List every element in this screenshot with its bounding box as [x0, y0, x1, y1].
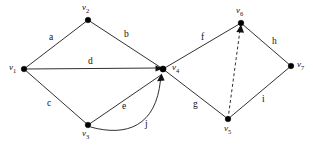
edge-label-i: i: [262, 95, 265, 105]
vertex-label-v4: v4: [172, 63, 179, 72]
edge-label-e: e: [122, 102, 126, 112]
vertex-label-v2: v2: [82, 3, 89, 12]
graph-canvas: [0, 0, 313, 150]
vertex-label-v3: v3: [82, 129, 89, 138]
edge-d: [24, 68, 160, 69]
edge-label-a: a: [49, 33, 53, 43]
edge-label-f: f: [201, 33, 204, 43]
vertex-v2: [85, 17, 91, 23]
edge-dashed-v5-v6: [228, 30, 240, 119]
vertex-label-v1: v1: [9, 63, 16, 72]
vertex-label-v5: v5: [224, 124, 231, 133]
edge-e: [88, 75, 161, 125]
edge-label-h: h: [272, 37, 277, 47]
vertex-v6: [238, 20, 244, 26]
edge-label-c: c: [47, 99, 51, 109]
edge-label-g: g: [193, 100, 198, 110]
vertex-v4: [160, 66, 166, 72]
vertex-v1: [21, 66, 27, 72]
edge-i: [228, 66, 291, 119]
edge-label-j: j: [145, 120, 148, 130]
graph-diagram: v1 v2 v3 v4 v5 v6 v7 a b c d e j f g h i: [0, 0, 313, 150]
edge-label-d: d: [88, 57, 93, 67]
vertex-v3: [85, 122, 91, 128]
edge-b: [88, 20, 163, 69]
edge-label-b: b: [124, 30, 129, 40]
vertex-v7: [288, 63, 294, 69]
edge-c: [24, 69, 88, 125]
vertex-label-v7: v7: [297, 60, 304, 69]
edge-a: [24, 20, 88, 69]
vertex-v5: [225, 116, 231, 122]
edge-g: [163, 69, 228, 119]
edge-h: [241, 23, 291, 66]
vertex-label-v6: v6: [236, 6, 243, 15]
